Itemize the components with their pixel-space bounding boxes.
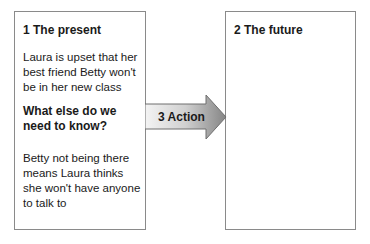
present-answer: Betty not being there means Laura thinks… [23, 151, 145, 211]
present-title: 1 The present [23, 23, 101, 37]
future-box: 2 The future [225, 11, 356, 230]
present-description: Laura is upset that her best friend Bett… [23, 50, 145, 95]
future-title: 2 The future [234, 23, 303, 37]
question-heading: What else do we need to know? [23, 104, 145, 134]
present-box: 1 The present Laura is upset that her be… [14, 11, 146, 230]
action-label: 3 Action [158, 110, 205, 124]
